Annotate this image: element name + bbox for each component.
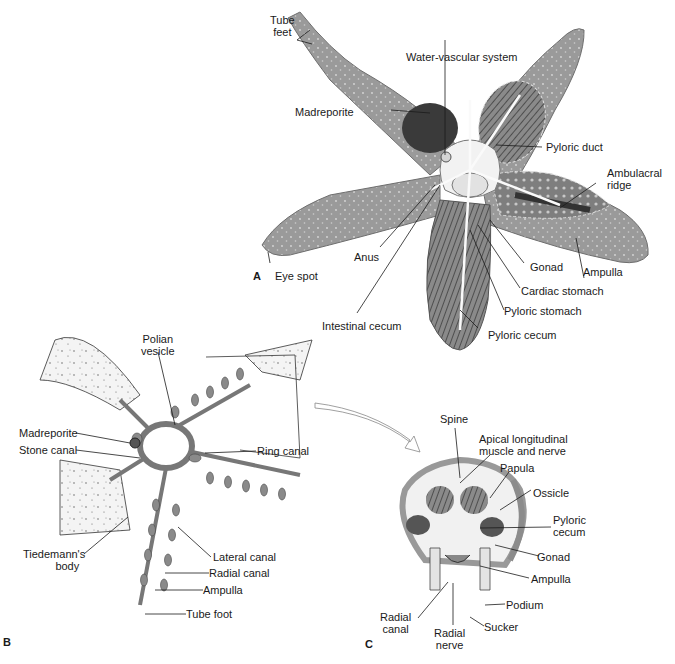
label-anus: Anus [354, 251, 379, 263]
label-polian-vesicle: Polian vesicle [141, 333, 175, 357]
label-spine: Spine [440, 413, 468, 425]
label-apical-longitudinal-muscle: Apical longitudinal muscle and nerve [479, 433, 568, 457]
label-ampulla-b: Ampulla [203, 584, 243, 596]
label-ring-canal: Ring canal [257, 445, 309, 457]
label-cardiac-stomach: Cardiac stomach [521, 285, 604, 297]
label-lateral-canal: Lateral canal [213, 551, 276, 563]
label-pyloric-duct: Pyloric duct [546, 141, 603, 153]
label-ambulacral-ridge: Ambulacral ridge [607, 167, 662, 191]
label-text: cecum [553, 526, 586, 538]
label-ampulla-c: Ampulla [531, 573, 571, 585]
label-text: Pyloric [553, 514, 586, 526]
label-text: nerve [434, 639, 465, 651]
panel-letter-b: B [3, 636, 11, 648]
label-madreporite-b: Madreporite [19, 427, 78, 439]
label-gonad-a: Gonad [530, 261, 563, 273]
label-ampulla-a: Ampulla [583, 266, 623, 278]
label-text: feet [270, 26, 295, 38]
label-text: Apical longitudinal [479, 433, 568, 445]
label-radial-nerve: Radial nerve [434, 627, 465, 651]
label-text: Tiedemann's [23, 548, 85, 560]
panel-letter-a: A [253, 270, 261, 282]
label-madreporite-a: Madreporite [295, 106, 354, 118]
label-text: canal [380, 623, 411, 635]
arrow-to-cross-section [315, 403, 420, 452]
label-text: muscle and nerve [479, 445, 568, 457]
label-intestinal-cecum: Intestinal cecum [322, 320, 401, 332]
label-tube-foot: Tube foot [186, 608, 232, 620]
label-podium: Podium [506, 599, 543, 611]
label-water-vascular-system: Water-vascular system [406, 51, 517, 63]
label-text: Radial [380, 611, 411, 623]
label-text: body [23, 560, 85, 572]
label-text: ridge [607, 179, 662, 191]
panel-c-cross-section [403, 460, 524, 590]
label-eye-spot: Eye spot [275, 270, 318, 282]
label-text: Tube [270, 14, 295, 26]
label-text: Radial [434, 627, 465, 639]
panel-letter-c: C [365, 638, 373, 650]
label-pyloric-cecum-a: Pyloric cecum [488, 329, 556, 341]
label-radial-canal-b: Radial canal [209, 567, 270, 579]
label-sucker: Sucker [484, 621, 518, 633]
label-gonad-c: Gonad [537, 551, 570, 563]
sea-star-illustration [0, 0, 675, 664]
label-tube-feet: Tube feet [270, 14, 295, 38]
label-text: Ambulacral [607, 167, 662, 179]
label-pyloric-cecum-c: Pyloric cecum [553, 514, 586, 538]
label-radial-canal-c: Radial canal [380, 611, 411, 635]
label-papula: Papula [500, 462, 534, 474]
label-ossicle: Ossicle [533, 487, 569, 499]
label-tiedemanns-body: Tiedemann's body [23, 548, 85, 572]
label-stone-canal: Stone canal [19, 444, 77, 456]
label-text: vesicle [141, 345, 175, 357]
label-pyloric-stomach: Pyloric stomach [504, 305, 582, 317]
label-text: Polian [141, 333, 175, 345]
